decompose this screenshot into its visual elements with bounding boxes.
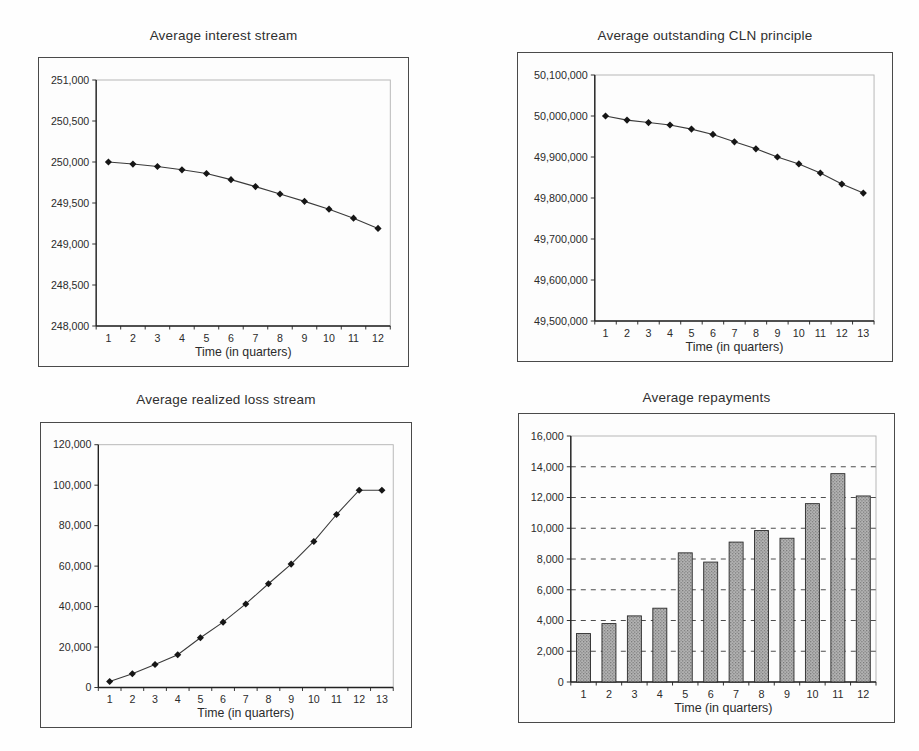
svg-text:16,000: 16,000	[531, 430, 564, 442]
svg-text:11: 11	[832, 688, 843, 700]
svg-text:9: 9	[302, 332, 308, 344]
svg-text:12: 12	[857, 688, 869, 700]
svg-text:Time (in quarters): Time (in quarters)	[686, 340, 784, 354]
svg-text:3: 3	[631, 688, 637, 700]
svg-text:11: 11	[348, 332, 359, 344]
average-outstanding-cln-principle-line-chart: 49,500,00049,600,00049,700,00049,800,000…	[518, 53, 892, 361]
average-interest-stream-line-chart: 248,000248,500249,000249,500250,000250,5…	[39, 58, 408, 366]
svg-text:2: 2	[624, 327, 630, 339]
svg-text:250,000: 250,000	[51, 156, 89, 168]
svg-text:4: 4	[667, 327, 673, 339]
svg-text:9: 9	[774, 327, 780, 339]
svg-text:0: 0	[558, 676, 564, 688]
svg-text:Time (in quarters): Time (in quarters)	[674, 701, 772, 715]
svg-text:14,000: 14,000	[531, 461, 564, 473]
svg-text:248,500: 248,500	[51, 279, 89, 291]
svg-text:10: 10	[793, 327, 805, 339]
svg-text:60,000: 60,000	[59, 560, 92, 572]
svg-text:50,100,000: 50,100,000	[534, 69, 588, 81]
svg-text:6,000: 6,000	[537, 584, 564, 596]
svg-text:49,900,000: 49,900,000	[534, 151, 588, 163]
scanned-charts-page: Average interest stream 248,000248,50024…	[0, 0, 919, 751]
svg-text:100,000: 100,000	[53, 479, 92, 491]
svg-text:1: 1	[581, 688, 587, 700]
svg-text:3: 3	[154, 332, 160, 344]
svg-text:9: 9	[288, 693, 294, 705]
svg-text:7: 7	[243, 693, 249, 705]
svg-text:10: 10	[308, 693, 320, 705]
svg-text:3: 3	[152, 693, 158, 705]
svg-text:1: 1	[603, 327, 609, 339]
svg-text:1: 1	[107, 693, 113, 705]
svg-text:40,000: 40,000	[59, 600, 92, 612]
svg-text:2: 2	[129, 693, 135, 705]
svg-text:4: 4	[657, 688, 663, 700]
svg-text:7: 7	[253, 332, 259, 344]
average-repayments-bar-chart: 02,0004,0006,0008,00010,00012,00014,0001…	[519, 414, 894, 722]
svg-text:49,500,000: 49,500,000	[534, 315, 588, 327]
chart-title-average-repayments: Average repayments	[518, 390, 895, 405]
svg-text:3: 3	[646, 327, 652, 339]
chart-panel-average-realized-loss-stream: 020,00040,00060,00080,000100,000120,0001…	[40, 422, 412, 728]
chart-title-average-interest-stream: Average interest stream	[38, 28, 409, 43]
svg-text:1: 1	[105, 332, 111, 344]
svg-text:6: 6	[710, 327, 716, 339]
chart-title-average-realized-loss-stream: Average realized loss stream	[40, 392, 412, 407]
svg-text:Time (in quarters): Time (in quarters)	[195, 345, 292, 359]
chart-panel-average-repayments: 02,0004,0006,0008,00010,00012,00014,0001…	[518, 413, 895, 723]
svg-text:12: 12	[353, 693, 365, 705]
svg-text:10: 10	[323, 332, 335, 344]
svg-text:249,500: 249,500	[51, 197, 89, 209]
svg-text:13: 13	[376, 693, 388, 705]
svg-text:6: 6	[708, 688, 714, 700]
svg-text:49,700,000: 49,700,000	[534, 233, 588, 245]
svg-text:10,000: 10,000	[531, 522, 564, 534]
svg-text:12: 12	[372, 332, 384, 344]
svg-text:4: 4	[179, 332, 185, 344]
svg-text:7: 7	[733, 688, 739, 700]
svg-text:7: 7	[731, 327, 737, 339]
svg-text:11: 11	[331, 693, 342, 705]
svg-text:50,000,000: 50,000,000	[534, 110, 588, 122]
svg-text:8: 8	[277, 332, 283, 344]
chart-panel-average-outstanding-cln-principle: 49,500,00049,600,00049,700,00049,800,000…	[517, 52, 893, 362]
svg-text:5: 5	[204, 332, 210, 344]
svg-text:10: 10	[806, 688, 818, 700]
svg-text:2: 2	[606, 688, 612, 700]
average-realized-loss-stream-line-chart: 020,00040,00060,00080,000100,000120,0001…	[41, 423, 411, 727]
svg-text:8: 8	[266, 693, 272, 705]
svg-text:13: 13	[857, 327, 869, 339]
svg-text:9: 9	[784, 688, 790, 700]
chart-panel-average-interest-stream: 248,000248,500249,000249,500250,000250,5…	[38, 57, 409, 367]
svg-text:4: 4	[175, 693, 181, 705]
svg-text:Time (in quarters): Time (in quarters)	[197, 706, 294, 720]
svg-text:8: 8	[753, 327, 759, 339]
svg-text:12,000: 12,000	[531, 491, 564, 503]
svg-text:250,500: 250,500	[51, 115, 89, 127]
svg-text:11: 11	[815, 327, 826, 339]
svg-text:2,000: 2,000	[537, 645, 564, 657]
svg-text:6: 6	[220, 693, 226, 705]
svg-text:5: 5	[682, 688, 688, 700]
svg-text:8: 8	[759, 688, 765, 700]
svg-text:20,000: 20,000	[59, 641, 92, 653]
svg-text:49,600,000: 49,600,000	[534, 274, 588, 286]
svg-text:49,800,000: 49,800,000	[534, 192, 588, 204]
svg-text:248,000: 248,000	[51, 320, 89, 332]
svg-text:251,000: 251,000	[51, 74, 89, 86]
svg-text:5: 5	[197, 693, 203, 705]
svg-text:5: 5	[688, 327, 694, 339]
svg-text:80,000: 80,000	[59, 519, 92, 531]
svg-text:6: 6	[228, 332, 234, 344]
svg-text:4,000: 4,000	[537, 614, 564, 626]
svg-text:0: 0	[85, 681, 91, 693]
svg-text:8,000: 8,000	[537, 553, 564, 565]
svg-text:249,000: 249,000	[51, 238, 89, 250]
chart-title-average-outstanding-cln-principle: Average outstanding CLN principle	[517, 28, 893, 43]
svg-text:120,000: 120,000	[53, 438, 92, 450]
svg-text:2: 2	[130, 332, 136, 344]
svg-text:12: 12	[836, 327, 848, 339]
